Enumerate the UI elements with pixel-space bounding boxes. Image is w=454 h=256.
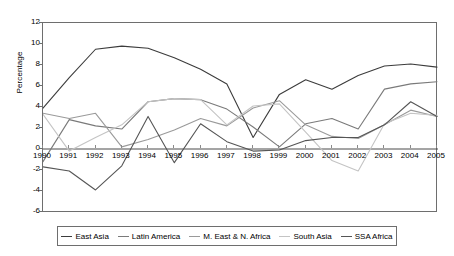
x-tick-label: 2003	[370, 151, 396, 160]
y-tick-label: 12	[16, 18, 40, 26]
legend-line-icon	[118, 236, 129, 237]
legend-item[interactable]: Latin America	[118, 232, 180, 241]
x-tick-label: 1995	[160, 151, 186, 160]
x-tick-mark	[147, 145, 148, 148]
series-line-m-east-n-africa	[43, 101, 437, 147]
chart-figure: Percentage 121086420-2-4-6 1990199119921…	[0, 0, 454, 256]
y-axis-tick-labels: 121086420-2-4-6	[10, 0, 40, 256]
x-tick-mark	[331, 145, 332, 148]
y-tick-label: 6	[16, 81, 40, 89]
x-tick-label: 2004	[397, 151, 423, 160]
x-tick-mark	[95, 145, 96, 148]
legend-item[interactable]: M. East & N. Africa	[189, 232, 270, 241]
x-tick-label: 1991	[55, 151, 81, 160]
y-tick-label: 2	[16, 123, 40, 131]
x-tick-mark	[410, 145, 411, 148]
x-tick-mark	[42, 145, 43, 148]
y-tick-label: 10	[16, 39, 40, 47]
legend-item-label: M. East & N. Africa	[203, 232, 270, 241]
legend-line-icon	[341, 236, 352, 237]
series-line-east-asia	[43, 46, 437, 137]
legend-line-icon	[61, 236, 72, 237]
chart-legend: East AsiaLatin AmericaM. East & N. Afric…	[57, 226, 397, 246]
x-tick-label: 1997	[213, 151, 239, 160]
x-tick-label: 1993	[108, 151, 134, 160]
x-tick-label: 2000	[292, 151, 318, 160]
legend-item-label: Latin America	[132, 232, 180, 241]
x-tick-label: 1996	[187, 151, 213, 160]
legend-item[interactable]: East Asia	[61, 232, 108, 241]
x-tick-mark	[226, 145, 227, 148]
x-tick-label: 1998	[239, 151, 265, 160]
legend-item-label: SSA Africa	[355, 232, 393, 241]
y-tick-label: -4	[16, 186, 40, 194]
x-tick-mark	[436, 145, 437, 148]
x-tick-mark	[121, 145, 122, 148]
x-tick-label: 2002	[344, 151, 370, 160]
legend-line-icon	[279, 236, 290, 237]
x-tick-mark	[357, 145, 358, 148]
x-tick-mark	[278, 145, 279, 148]
legend-item-label: East Asia	[75, 232, 108, 241]
x-tick-label: 1990	[29, 151, 55, 160]
x-tick-label: 2005	[423, 151, 449, 160]
x-tick-label: 1992	[82, 151, 108, 160]
series-lines	[43, 23, 438, 213]
plot-area	[42, 22, 437, 212]
y-tick-label: -2	[16, 165, 40, 173]
legend-line-icon	[189, 236, 200, 237]
x-tick-mark	[173, 145, 174, 148]
legend-item-label: South Asia	[293, 232, 331, 241]
x-tick-label: 1999	[265, 151, 291, 160]
x-tick-label: 2001	[318, 151, 344, 160]
x-tick-mark	[383, 145, 384, 148]
x-tick-mark	[305, 145, 306, 148]
x-tick-mark	[68, 145, 69, 148]
y-tick-label: 4	[16, 102, 40, 110]
x-tick-mark	[252, 145, 253, 148]
y-tick-label: -6	[16, 207, 40, 215]
x-tick-label: 1994	[134, 151, 160, 160]
x-tick-mark	[200, 145, 201, 148]
legend-item[interactable]: South Asia	[279, 232, 331, 241]
y-tick-label: 8	[16, 60, 40, 68]
legend-item[interactable]: SSA Africa	[341, 232, 393, 241]
